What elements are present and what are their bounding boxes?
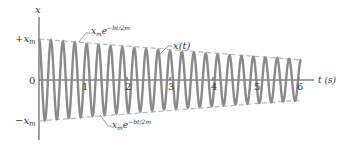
plus-xm-label: +xm (15, 33, 36, 46)
svg-text:2: 2 (125, 81, 131, 92)
minus-xm-label: −xm (15, 115, 36, 128)
damped-oscillation-diagram: x +xm 0 −xm 1 2 3 4 5 6 t (s) xme−bt/2m … (0, 0, 351, 147)
curve-label: x(t) (173, 40, 191, 51)
svg-text:4: 4 (211, 81, 217, 92)
svg-text:5: 5 (254, 81, 260, 92)
lower-envelope-leader (100, 115, 112, 126)
upper-envelope-leader (79, 33, 90, 42)
svg-text:3: 3 (168, 81, 174, 92)
x-axis-label: t (s) (318, 75, 337, 85)
svg-text:1: 1 (82, 81, 88, 92)
upper-envelope-label: xme−bt/2m (91, 24, 130, 37)
svg-text:6: 6 (297, 81, 303, 92)
zero-label: 0 (29, 75, 35, 86)
y-axis-label: x (35, 4, 41, 15)
lower-envelope-label: xme−bt/2m (112, 118, 151, 131)
